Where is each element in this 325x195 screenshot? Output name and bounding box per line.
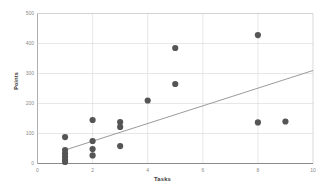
data-points [62, 32, 289, 165]
x-axis-title: Tasks [0, 176, 325, 182]
svg-text:8: 8 [257, 167, 260, 173]
svg-text:400: 400 [26, 40, 35, 46]
svg-text:10: 10 [310, 167, 316, 173]
x-axis-tick-labels: 0246810 [36, 167, 316, 173]
svg-text:0: 0 [36, 167, 39, 173]
svg-text:6: 6 [201, 167, 204, 173]
chart-canvas: 0246810 0100200300400500 [0, 0, 325, 195]
scatter-chart: 0246810 0100200300400500 Points Tasks [0, 0, 325, 195]
y-axis-title: Points [13, 51, 19, 111]
svg-text:2: 2 [91, 167, 94, 173]
trend-line [65, 71, 313, 151]
plot-frame [38, 14, 314, 164]
gridlines [38, 14, 314, 164]
svg-text:200: 200 [26, 100, 35, 106]
svg-text:4: 4 [146, 167, 149, 173]
svg-text:500: 500 [26, 10, 35, 16]
svg-text:300: 300 [26, 70, 35, 76]
svg-text:100: 100 [26, 130, 35, 136]
y-axis-tick-labels: 0100200300400500 [26, 10, 35, 166]
svg-text:0: 0 [31, 160, 34, 166]
